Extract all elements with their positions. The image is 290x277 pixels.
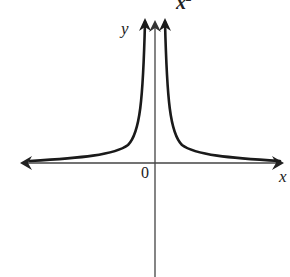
chart-title-fragment: x2 [176,0,192,14]
y-axis-label: y [121,19,129,39]
curve-left-branch [30,22,145,161]
graph-of-reciprocal-square [0,0,290,277]
title-denominator: x [176,0,186,13]
origin-label: 0 [141,164,149,182]
title-exponent: 2 [186,0,192,4]
curve-right-branch [165,22,280,161]
x-axis-label: x [279,167,287,187]
